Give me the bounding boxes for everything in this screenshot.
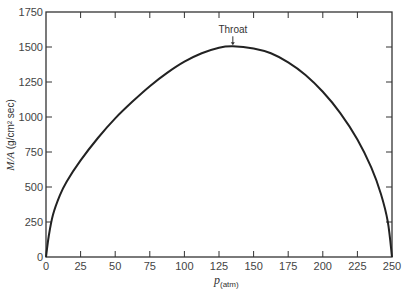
y-axis-label: M/A (g/cm² sec) <box>4 99 16 172</box>
y-tick-label: 1250 <box>19 76 43 88</box>
arrowhead-icon <box>231 42 235 45</box>
plot-border <box>46 12 392 257</box>
x-tick-label: 100 <box>175 260 193 272</box>
x-tick-label: 250 <box>383 260 401 272</box>
throat-annotation: Throat <box>218 24 247 45</box>
y-tick-label: 500 <box>25 181 43 193</box>
x-tick-label: 200 <box>314 260 332 272</box>
y-tick-label: 1000 <box>19 111 43 123</box>
x-tick-label: 225 <box>348 260 366 272</box>
tick-labels: 0255075100125150175200225250025050075010… <box>19 6 402 272</box>
y-tick-label: 0 <box>37 251 43 263</box>
y-tick-label: 750 <box>25 146 43 158</box>
x-tick-label: 175 <box>279 260 297 272</box>
x-tick-label: 25 <box>74 260 86 272</box>
throat-label: Throat <box>218 24 247 35</box>
x-tick-label: 50 <box>109 260 121 272</box>
x-tick-label: 150 <box>244 260 262 272</box>
x-tick-label: 125 <box>210 260 228 272</box>
x-tick-label: 0 <box>43 260 49 272</box>
y-tick-label: 1500 <box>19 41 43 53</box>
axis-ticks <box>46 12 392 257</box>
x-axis-label: p(atm) <box>213 273 239 289</box>
y-tick-label: 250 <box>25 216 43 228</box>
plot-frame <box>46 12 392 257</box>
y-tick-label: 1750 <box>19 6 43 18</box>
mass-flux-chart: 0255075100125150175200225250025050075010… <box>0 0 404 293</box>
x-tick-label: 75 <box>144 260 156 272</box>
data-curve <box>46 46 392 257</box>
